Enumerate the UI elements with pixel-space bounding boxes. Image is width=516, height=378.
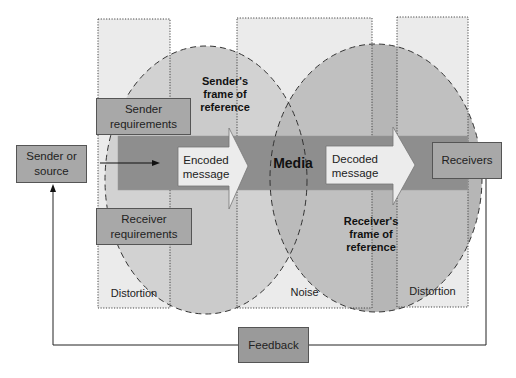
receivers-label: Receivers <box>441 153 492 168</box>
communication-diagram: Sender or source Sender requirements Rec… <box>0 0 516 378</box>
sender-frame-label: Sender's frame of reference <box>186 78 264 110</box>
sender-requirements-box: Sender requirements <box>96 98 191 135</box>
distortion-left-label: Distortion <box>98 285 170 301</box>
noise-label: Noise <box>237 284 372 300</box>
sender-source-label: Sender or source <box>22 149 82 179</box>
decoded-message-label: Decoded message <box>328 148 382 183</box>
receiver-requirements-label: Receiver requirements <box>109 212 179 242</box>
sender-source-box: Sender or source <box>16 145 87 183</box>
receiver-frame-label: Receiver's frame of reference <box>342 211 400 257</box>
feedback-box: Feedback <box>238 327 309 363</box>
receiver-requirements-box: Receiver requirements <box>96 208 192 245</box>
encoded-message-label: Encoded message <box>180 149 232 184</box>
distortion-right-label: Distortion <box>397 283 468 299</box>
receivers-box: Receivers <box>432 142 502 179</box>
feedback-label: Feedback <box>248 338 299 353</box>
feedback-to-sender-arrowhead-icon <box>50 184 56 192</box>
media-label: Media <box>270 152 316 174</box>
sender-requirements-label: Sender requirements <box>109 102 179 132</box>
